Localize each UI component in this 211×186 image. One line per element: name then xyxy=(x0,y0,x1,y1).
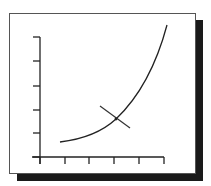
exponential-curve xyxy=(60,25,167,142)
x-axis-ticks xyxy=(40,157,164,164)
plot-area xyxy=(0,0,211,186)
axes xyxy=(32,37,164,164)
y-axis-ticks xyxy=(33,37,40,157)
tangent-point xyxy=(115,118,118,121)
